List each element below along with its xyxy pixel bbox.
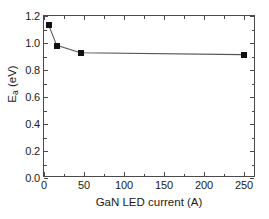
y-tick-label: 0.2	[25, 145, 40, 157]
x-tick-label: 200	[195, 179, 213, 191]
y-axis-title-base: E	[6, 95, 18, 103]
x-tick-label: 50	[78, 179, 90, 191]
plot-area: 0.00.20.40.60.81.01.2050100150200250	[43, 15, 255, 177]
x-tick-label: 0	[41, 179, 47, 191]
data-point-marker	[54, 43, 60, 49]
y-axis-title: Ea (eV)	[6, 44, 18, 124]
y-tick-label: 1.0	[25, 37, 40, 49]
x-tick-label: 150	[155, 179, 173, 191]
y-tick-label: 0.8	[25, 64, 40, 76]
data-series-layer	[44, 16, 254, 176]
x-tick-label: 250	[235, 179, 253, 191]
data-point-marker	[78, 50, 84, 56]
y-tick-label: 1.2	[25, 10, 40, 22]
y-tick-label: 0.6	[25, 91, 40, 103]
data-point-marker	[241, 52, 247, 58]
chart-figure: 0.00.20.40.60.81.01.2050100150200250 GaN…	[0, 0, 269, 219]
x-tick-label: 100	[115, 179, 133, 191]
data-point-marker	[46, 22, 52, 28]
y-tick-label: 0.0	[25, 172, 40, 184]
x-axis-title: GaN LED current (A)	[43, 196, 255, 208]
y-axis-title-unit: (eV)	[6, 65, 18, 90]
y-axis-title-subscript: a	[10, 90, 20, 95]
y-tick-label: 0.4	[25, 118, 40, 130]
